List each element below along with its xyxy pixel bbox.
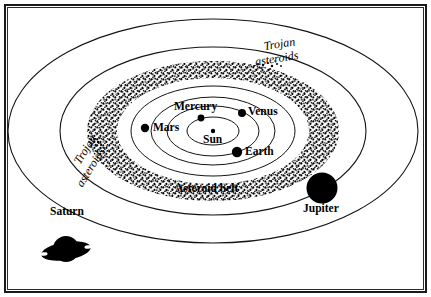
- body-saturn: [40, 236, 92, 264]
- label-jupiter: Jupiter: [303, 203, 339, 215]
- label-mars: Mars: [153, 122, 179, 134]
- label-venus: Venus: [248, 106, 278, 118]
- body-venus: [238, 109, 246, 117]
- body-earth: [232, 147, 242, 157]
- label-earth: Earth: [245, 146, 274, 158]
- body-mars: [141, 124, 149, 132]
- label-mercury: Mercury: [174, 101, 217, 113]
- body-mercury: [198, 115, 205, 122]
- label-sun: Sun: [203, 134, 222, 146]
- label-saturn: Saturn: [50, 206, 84, 218]
- label-asteroid-belt: Asteroid belt: [175, 183, 238, 195]
- label-trojan-asteroids-top: Trojan asteroids: [252, 35, 299, 67]
- solar-system-canvas: [0, 0, 431, 297]
- body-jupiter: [307, 173, 338, 204]
- solar-system-figure: Sun Mercury Venus Earth Mars Jupiter Sat…: [0, 0, 431, 297]
